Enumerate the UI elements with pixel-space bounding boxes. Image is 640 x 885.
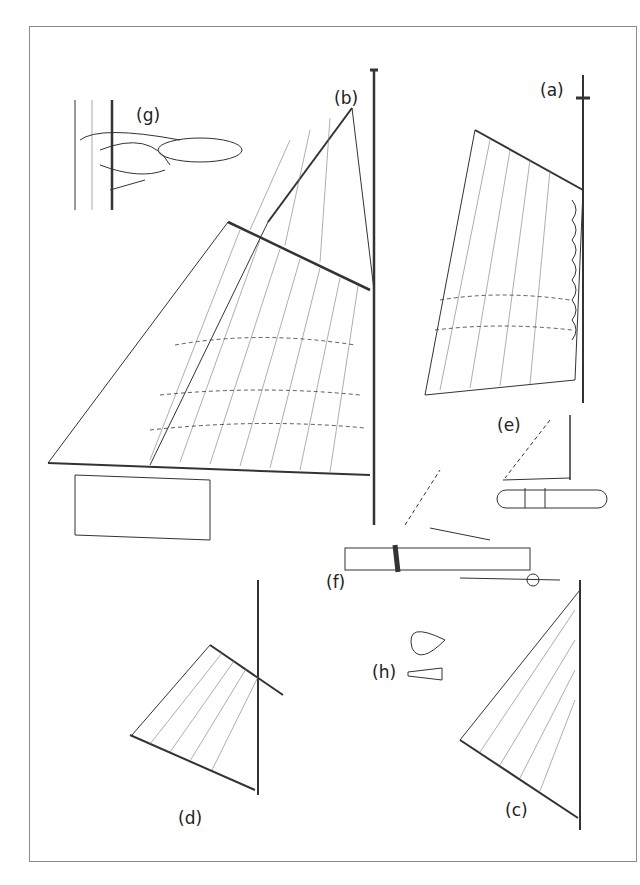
label-a: (a) <box>540 80 564 100</box>
detail-f <box>345 470 560 586</box>
detail-h <box>408 632 445 680</box>
rig-b <box>48 70 378 540</box>
label-e: (e) <box>497 415 521 435</box>
label-h: (h) <box>372 662 396 682</box>
rig-a <box>425 75 590 403</box>
rig-c <box>460 580 580 830</box>
label-b: (b) <box>334 88 358 108</box>
label-f: (f) <box>326 572 345 592</box>
rigging-drawing <box>0 0 640 885</box>
label-d: (d) <box>178 808 202 828</box>
label-c: (c) <box>505 800 528 820</box>
label-g: (g) <box>136 105 160 125</box>
rig-d <box>130 580 283 795</box>
